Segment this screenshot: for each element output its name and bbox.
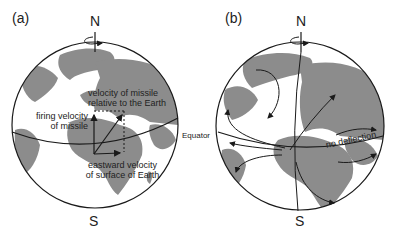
north-label-a: N — [90, 13, 100, 29]
firing-velocity-line2: of missile — [34, 121, 88, 131]
south-label-b: S — [295, 213, 304, 229]
equator-label: Equator — [182, 131, 210, 140]
north-label-b: N — [296, 13, 306, 29]
eastward-velocity-label: eastward velocity of surface of Earth — [85, 160, 160, 180]
firing-velocity-label: firing velocity of missile — [34, 111, 88, 131]
panel-label-b: (b) — [225, 10, 242, 26]
panel-label-a: (a) — [12, 10, 29, 26]
eastward-velocity-line2: of surface of Earth — [85, 170, 160, 180]
globe-b — [216, 32, 387, 212]
eastward-velocity-line1: eastward velocity — [85, 160, 160, 170]
south-label-a: S — [89, 213, 98, 229]
relative-velocity-line2: relative to the Earth — [88, 98, 166, 108]
firing-velocity-line1: firing velocity — [34, 111, 88, 121]
relative-velocity-line1: velocity of missile — [88, 88, 166, 98]
relative-velocity-label: velocity of missile relative to the Eart… — [88, 88, 166, 108]
